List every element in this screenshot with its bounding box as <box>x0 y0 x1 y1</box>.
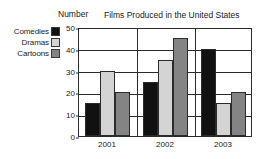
y-axis-title: Number <box>58 9 88 19</box>
bar-chart: Comedies Dramas Cartoons Number Films Pr… <box>0 0 268 159</box>
legend-item-cartoons: Cartoons <box>2 48 60 58</box>
plot-area: 01020304050 <box>78 28 252 137</box>
y-tick-mark-10 <box>76 116 79 117</box>
bar-cartoons-2002 <box>173 38 188 136</box>
bar-comedies-2002 <box>143 82 158 137</box>
bar-comedies-2001 <box>85 103 100 136</box>
chart-legend: Comedies Dramas Cartoons <box>2 26 60 59</box>
bar-dramas-2003 <box>216 103 231 136</box>
group-separator-2 <box>195 29 196 136</box>
bar-comedies-2003 <box>201 49 216 136</box>
x-axis-label-2002: 2002 <box>156 140 174 149</box>
y-tick-mark-20 <box>76 94 79 95</box>
y-tick-mark-50 <box>76 29 79 30</box>
bar-cartoons-2001 <box>115 92 130 136</box>
legend-item-dramas: Dramas <box>2 37 60 47</box>
chart-title: Films Produced in the United States <box>104 10 240 20</box>
x-axis-label-2001: 2001 <box>98 140 116 149</box>
legend-swatch-dramas <box>51 38 60 47</box>
legend-swatch-comedies <box>51 27 60 36</box>
legend-label-cartoons: Cartoons <box>17 49 51 58</box>
legend-label-dramas: Dramas <box>22 38 51 47</box>
y-tick-mark-0 <box>76 138 79 139</box>
bar-dramas-2001 <box>100 71 115 136</box>
y-tick-mark-30 <box>76 72 79 73</box>
bar-dramas-2002 <box>158 60 173 136</box>
gridline-40 <box>79 50 251 51</box>
y-tick-mark-40 <box>76 50 79 51</box>
x-axis-label-2003: 2003 <box>214 140 232 149</box>
group-separator-1 <box>137 29 138 136</box>
legend-swatch-cartoons <box>51 49 60 58</box>
bar-cartoons-2003 <box>231 92 246 136</box>
legend-label-comedies: Comedies <box>14 27 51 36</box>
legend-item-comedies: Comedies <box>2 26 60 36</box>
